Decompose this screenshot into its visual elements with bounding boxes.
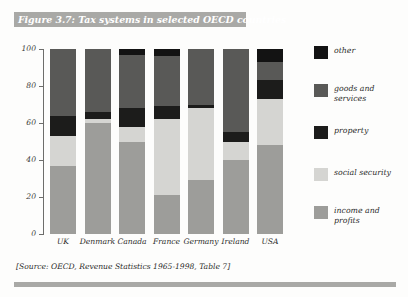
y-axis-tick-100 (39, 49, 43, 50)
bar-segment-denmark-income-and-profits (85, 123, 111, 234)
bar-segment-denmark-property (85, 112, 111, 119)
y-axis-tick-label-100: 100 (12, 45, 36, 53)
bar-segment-france-goods-and-services (154, 56, 180, 106)
bar-segment-uk-social-security (50, 136, 76, 166)
legend-swatch-icon-goods-and-services (314, 84, 328, 97)
bar-segment-ireland-social-security (223, 142, 249, 161)
bar-segment-uk-goods-and-services (50, 49, 76, 116)
source-note: [Source: OECD, Revenue Statistics 1965-1… (16, 262, 230, 271)
bar-segment-usa-property (257, 80, 283, 99)
legend-item-income-and-profits[interactable]: income and profits (314, 206, 400, 225)
bar-segment-denmark-goods-and-services (85, 49, 111, 112)
bar-segment-uk-property (50, 116, 76, 136)
y-axis-tick-label-20: 20 (12, 193, 36, 201)
bar-segment-usa-social-security (257, 99, 283, 145)
y-axis-tick-0 (39, 234, 43, 235)
bar-segment-france-income-and-profits (154, 195, 180, 234)
bar-segment-canada-other (119, 49, 145, 55)
y-axis-tick-40 (39, 160, 43, 161)
legend-label: other (334, 46, 355, 56)
legend-swatch-icon-income-and-profits (314, 206, 328, 219)
bar-segment-germany-property (188, 105, 214, 109)
bar-segment-ireland-property (223, 132, 249, 141)
bar-segment-germany-social-security (188, 108, 214, 180)
bar-segment-usa-income-and-profits (257, 145, 283, 234)
legend-label: social security (334, 168, 391, 178)
bar-segment-canada-income-and-profits (119, 142, 145, 235)
bar-denmark[interactable] (85, 49, 111, 234)
bar-segment-germany-income-and-profits (188, 180, 214, 234)
chart-plot-area: percentage of total tax revenue UKDenmar… (44, 49, 302, 234)
y-axis-tick-label-80: 80 (12, 82, 36, 90)
bar-canada[interactable] (119, 49, 145, 234)
y-axis-tick-20 (39, 197, 43, 198)
bar-segment-usa-goods-and-services (257, 62, 283, 81)
bar-germany[interactable] (188, 49, 214, 234)
bar-segment-canada-property (119, 108, 145, 127)
page-title: Figure 3.7: Tax systems in selected OECD… (14, 14, 286, 25)
bar-france[interactable] (154, 49, 180, 234)
bar-uk[interactable] (50, 49, 76, 234)
y-axis-tick-label-60: 60 (12, 119, 36, 127)
figure-container: Figure 3.7: Tax systems in selected OECD… (0, 0, 408, 297)
bar-segment-usa-other (257, 49, 283, 62)
bar-segment-ireland-goods-and-services (223, 49, 249, 132)
bar-segment-canada-social-security (119, 127, 145, 142)
x-axis-label-usa: USA (244, 237, 296, 246)
bar-segment-canada-goods-and-services (119, 55, 145, 109)
legend-item-goods-and-services[interactable]: goods and services (314, 84, 400, 103)
legend-swatch-icon-other (314, 46, 328, 59)
legend-swatch-icon-property (314, 126, 328, 139)
bar-ireland[interactable] (223, 49, 249, 234)
legend-label: goods and services (334, 84, 400, 103)
bar-segment-france-other (154, 49, 180, 56)
y-axis-tick-label-0: 0 (12, 230, 36, 238)
bar-segment-denmark-social-security (85, 119, 111, 123)
bar-segment-germany-goods-and-services (188, 49, 214, 105)
bar-segment-ireland-income-and-profits (223, 160, 249, 234)
legend-label: property (334, 126, 368, 136)
bottom-rule-divider (14, 282, 396, 287)
y-axis-tick-label-40: 40 (12, 156, 36, 164)
legend-label: income and profits (334, 206, 400, 225)
bar-segment-france-property (154, 106, 180, 119)
bar-usa[interactable] (257, 49, 283, 234)
figure-title-banner: Figure 3.7: Tax systems in selected OECD… (14, 12, 246, 27)
legend-item-other[interactable]: other (314, 46, 355, 59)
y-axis-tick-60 (39, 123, 43, 124)
y-axis-tick-80 (39, 86, 43, 87)
legend-item-social-security[interactable]: social security (314, 168, 391, 181)
legend-swatch-icon-social-security (314, 168, 328, 181)
legend-item-property[interactable]: property (314, 126, 368, 139)
bar-segment-france-social-security (154, 119, 180, 195)
bar-segment-uk-income-and-profits (50, 166, 76, 234)
